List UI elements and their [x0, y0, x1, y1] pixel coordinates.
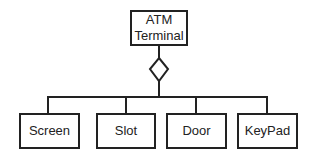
atm-terminal-label-line2: Terminal [134, 28, 183, 44]
slot-box: Slot [96, 113, 156, 149]
keypad-label: KeyPad [245, 123, 291, 139]
keypad-box: KeyPad [237, 113, 298, 149]
door-box: Door [166, 113, 227, 149]
atm-terminal-label-line1: ATM [146, 12, 172, 28]
slot-label: Slot [115, 123, 137, 139]
atm-terminal-box: ATM Terminal [130, 10, 188, 46]
aggregation-diamond-icon [150, 58, 168, 81]
door-label: Door [182, 123, 210, 139]
screen-label: Screen [29, 123, 70, 139]
screen-box: Screen [19, 113, 80, 149]
